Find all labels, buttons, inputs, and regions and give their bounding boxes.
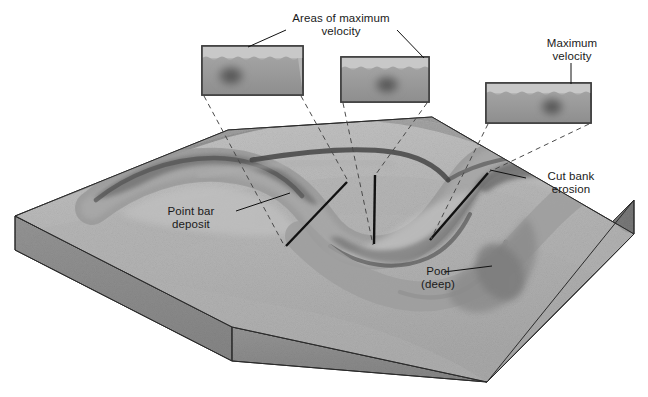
dashed-leader-inset3-right — [489, 124, 589, 172]
label-areas-of-maximum-velocity-line1: Areas of maximum — [292, 12, 389, 24]
inset-cross-section-downstream — [486, 83, 591, 123]
label-maximum-velocity-line1: Maximum — [547, 37, 598, 49]
label-pool-deep-line1: Pool — [426, 265, 449, 277]
label-pool-deep: Pool (deep) — [410, 265, 466, 291]
inset-3-sky — [486, 83, 591, 93]
label-cut-bank-erosion: Cut bank erosion — [528, 170, 614, 196]
inset-3-velocity-core — [537, 95, 567, 119]
label-point-bar-deposit-line2: deposit — [172, 218, 210, 230]
label-areas-of-maximum-velocity: Areas of maximum velocity — [268, 12, 414, 38]
label-point-bar-deposit-line1: Point bar — [168, 205, 215, 217]
label-maximum-velocity: Maximum velocity — [524, 37, 620, 63]
cross-section-line-2 — [374, 175, 375, 244]
figure-canvas: Areas of maximum velocity Maximum veloci… — [0, 0, 648, 397]
label-point-bar-deposit: Point bar deposit — [148, 205, 234, 231]
inset-1-sky — [202, 46, 303, 58]
label-cut-bank-erosion-line2: erosion — [552, 183, 590, 195]
label-cut-bank-erosion-line1: Cut bank — [548, 170, 595, 182]
label-pool-deep-line2: (deep) — [421, 278, 455, 290]
inset-2-velocity-core — [371, 73, 403, 97]
inset-1-velocity-core — [214, 63, 248, 89]
label-areas-of-maximum-velocity-line2: velocity — [321, 25, 360, 37]
label-maximum-velocity-line2: velocity — [552, 50, 591, 62]
inset-2-sky — [341, 57, 429, 68]
inset-cross-section-midstream — [341, 57, 429, 102]
inset-cross-section-upstream — [202, 46, 303, 95]
